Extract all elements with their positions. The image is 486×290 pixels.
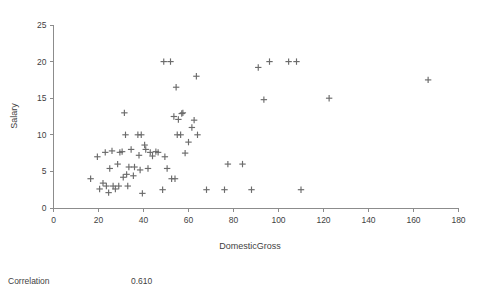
statistics-row: Correlation 0.610 xyxy=(0,276,486,290)
data-point-marker xyxy=(293,58,299,64)
x-tick-label: 140 xyxy=(361,216,375,225)
data-point-marker xyxy=(145,165,151,171)
data-point-marker xyxy=(172,176,178,182)
x-tick-label: 0 xyxy=(51,216,56,225)
data-point-marker xyxy=(179,110,185,116)
data-point-marker xyxy=(173,84,179,90)
data-point-marker xyxy=(136,152,142,158)
data-point-marker xyxy=(139,190,145,196)
data-point-marker xyxy=(87,176,93,182)
data-point-marker xyxy=(137,167,143,173)
data-point-marker xyxy=(120,174,126,180)
data-point-marker xyxy=(130,173,136,179)
x-tick-label: 60 xyxy=(184,216,193,225)
correlation-value: 0.610 xyxy=(131,276,152,286)
y-tick-label: 5 xyxy=(42,167,47,176)
data-point-marker xyxy=(143,146,149,152)
data-point-marker xyxy=(122,132,128,138)
data-point-marker xyxy=(182,150,188,156)
x-tick-label: 100 xyxy=(271,216,285,225)
data-point-marker xyxy=(285,58,291,64)
axes-group xyxy=(50,25,459,212)
data-point-marker xyxy=(102,149,108,155)
data-point-marker xyxy=(114,161,120,167)
data-point-marker xyxy=(103,183,109,189)
data-point-marker xyxy=(203,187,209,193)
data-point-marker xyxy=(221,187,227,193)
x-tick-label: 40 xyxy=(139,216,148,225)
correlation-label: Correlation xyxy=(8,276,50,286)
data-point-marker xyxy=(266,58,272,64)
data-point-marker xyxy=(125,183,131,189)
x-tick-label: 160 xyxy=(406,216,420,225)
data-point-marker xyxy=(191,117,197,123)
data-point-marker xyxy=(138,132,144,138)
data-point-marker xyxy=(225,161,231,167)
x-tick-label: 20 xyxy=(94,216,103,225)
data-point-marker xyxy=(105,189,111,195)
data-point-marker xyxy=(425,77,431,83)
y-axis-title: Salary xyxy=(9,103,19,129)
data-point-marker xyxy=(121,110,127,116)
y-tick-label: 25 xyxy=(37,21,46,30)
data-point-marker xyxy=(326,95,332,101)
data-point-markers xyxy=(87,58,431,196)
data-point-marker xyxy=(193,73,199,79)
data-point-marker xyxy=(180,110,186,116)
data-point-marker xyxy=(255,64,261,70)
data-point-marker xyxy=(171,113,177,119)
data-point-marker xyxy=(116,183,122,189)
x-axis-ticks xyxy=(54,208,459,212)
x-tick-label: 180 xyxy=(451,216,465,225)
data-point-marker xyxy=(159,187,165,193)
y-axis-ticks xyxy=(50,25,54,208)
data-point-marker xyxy=(107,165,113,171)
data-point-marker xyxy=(175,116,181,122)
data-point-marker xyxy=(164,165,170,171)
data-point-marker xyxy=(261,96,267,102)
data-point-marker xyxy=(100,180,106,186)
data-point-marker xyxy=(189,124,195,130)
y-tick-label: 20 xyxy=(37,57,46,66)
data-point-marker xyxy=(109,148,115,154)
data-point-marker xyxy=(131,164,137,170)
scatter-plot-figure: 020406080100120140160180 0510152025 Dome… xyxy=(0,0,486,290)
data-point-marker xyxy=(177,132,183,138)
data-point-marker xyxy=(194,132,200,138)
data-point-marker xyxy=(126,164,132,170)
data-point-marker xyxy=(128,146,134,152)
y-tick-label: 0 xyxy=(42,204,47,213)
x-tick-label: 120 xyxy=(316,216,330,225)
x-tick-label: 80 xyxy=(229,216,238,225)
data-point-marker xyxy=(248,187,254,193)
y-tick-label: 10 xyxy=(37,131,46,140)
data-point-marker xyxy=(239,161,245,167)
data-point-marker xyxy=(185,139,191,145)
data-point-marker xyxy=(167,58,173,64)
data-point-marker xyxy=(94,154,100,160)
x-axis-title: DomesticGross xyxy=(219,241,281,251)
data-point-marker xyxy=(96,186,102,192)
data-point-marker xyxy=(161,58,167,64)
data-point-marker xyxy=(162,154,168,160)
data-point-marker xyxy=(298,187,304,193)
data-point-marker xyxy=(123,171,129,177)
y-tick-label: 15 xyxy=(37,94,46,103)
data-point-marker xyxy=(141,142,147,148)
